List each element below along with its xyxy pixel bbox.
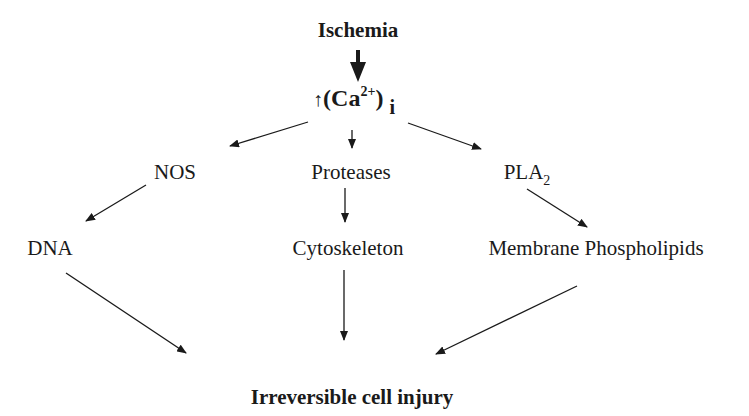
node-irreversible-cell-injury: Irreversible cell injury bbox=[251, 387, 454, 408]
arrow-calcium-to-nos bbox=[230, 122, 308, 146]
node-proteases: Proteases bbox=[311, 162, 390, 183]
up-arrow-icon: ↑ bbox=[313, 88, 323, 110]
node-membrane-phospholipids: Membrane Phospholipids bbox=[488, 238, 703, 259]
arrow-ischemia-to-calcium bbox=[350, 50, 366, 82]
arrow-membrane-to-injury bbox=[436, 286, 577, 354]
node-nos: NOS bbox=[154, 162, 196, 183]
arrow-calcium-to-pla2 bbox=[408, 123, 481, 149]
arrow-layer bbox=[0, 0, 749, 416]
node-dna: DNA bbox=[27, 238, 73, 259]
diagram-canvas: Ischemia ↑(Ca2+)i NOS Proteases PLA2 DNA… bbox=[0, 0, 749, 416]
node-cytoskeleton: Cytoskeleton bbox=[293, 238, 404, 259]
node-ischemia: Ischemia bbox=[318, 20, 399, 41]
node-intracellular-calcium: ↑(Ca2+)i bbox=[313, 86, 395, 110]
node-pla2: PLA2 bbox=[504, 162, 551, 183]
arrow-pla2-to-membrane bbox=[527, 189, 587, 227]
arrow-nos-to-dna bbox=[86, 185, 146, 221]
arrow-dna-to-injury bbox=[66, 273, 186, 353]
